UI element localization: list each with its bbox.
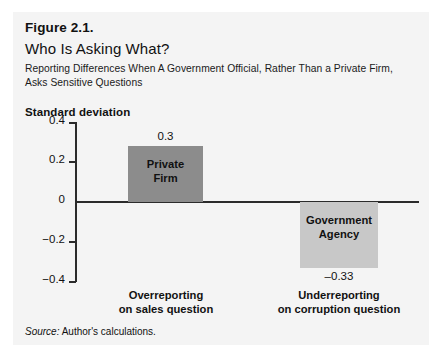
bar-private-firm-value: 0.3 [128,130,203,142]
y-tick-label: 0.4 [21,114,65,126]
source-note: Source: Author's calculations. [25,326,156,337]
bar-government-agency-label-line2: Agency [300,228,378,242]
bar-private-firm-label-line1: Private [128,158,203,172]
bar-government-agency: Government Agency [300,202,378,268]
category-label-overreporting: Overreporting on sales question [85,288,247,316]
bar-government-agency-value: –0.33 [300,270,378,282]
y-tick-label: −0.2 [21,233,65,245]
y-tick-mark [69,241,76,243]
category-label-overreporting-line1: Overreporting [85,288,247,302]
y-tick-label: 0.2 [21,153,65,165]
y-tick-mark [69,281,76,283]
bar-government-agency-label-line1: Government [300,214,378,228]
category-label-overreporting-line2: on sales question [85,302,247,316]
bar-private-firm-label: Private Firm [128,158,203,185]
figure-frame: Figure 2.1. Who Is Asking What? Reportin… [13,12,429,345]
source-label: Source: [25,326,59,337]
y-tick-mark [69,161,76,163]
y-tick-label: −0.4 [21,273,65,285]
bar-private-firm: Private Firm [128,146,203,202]
y-tick-mark [69,122,76,124]
category-label-underreporting-line2: on corruption question [253,302,425,316]
plot-area: 0.4 0.2 0 −0.2 −0.4 Private Firm Governm… [13,12,429,345]
source-text: Author's calculations. [59,326,155,337]
category-label-underreporting-line1: Underreporting [253,288,425,302]
y-tick-label: 0 [21,193,65,205]
category-label-underreporting: Underreporting on corruption question [253,288,425,316]
bar-government-agency-label: Government Agency [300,214,378,241]
bar-private-firm-label-line2: Firm [128,172,203,186]
